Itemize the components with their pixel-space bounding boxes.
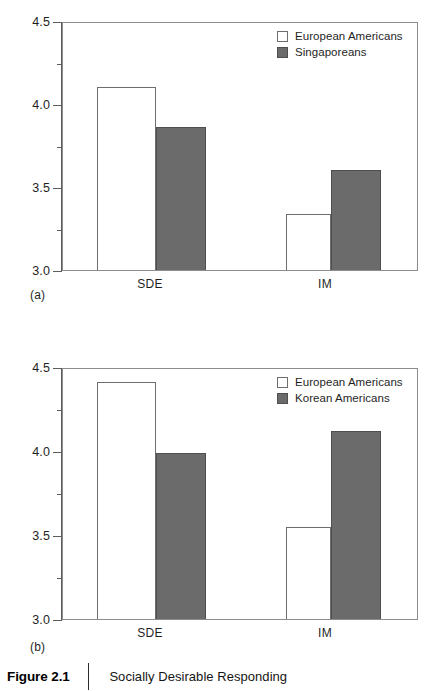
plot-area-panel-a — [62, 22, 418, 271]
y-axis-tick-major — [53, 188, 62, 189]
y-axis-tick-minor — [57, 147, 62, 148]
y-axis-panel-b — [0, 348, 62, 648]
y-axis-panel-a — [0, 0, 62, 320]
x-axis-label-sde: SDE — [137, 277, 163, 291]
figure-title: Socially Desirable Responding — [109, 669, 287, 684]
panel-tag-b: (b) — [30, 640, 45, 654]
bar-sde-series-1 — [97, 382, 156, 619]
chart-panel-b: European AmericansKorean Americans (b) 3… — [0, 348, 435, 648]
legend-label: Korean Americans — [295, 392, 390, 404]
legend-item: European Americans — [277, 30, 403, 42]
y-axis-tick-minor — [57, 410, 62, 411]
x-axis-label-im: IM — [318, 277, 332, 291]
y-axis-tick-major — [53, 105, 62, 106]
y-axis-tick-minor — [57, 578, 62, 579]
legend-panel-a: European AmericansSingaporeans — [277, 30, 403, 58]
y-axis-label: 3.5 — [32, 181, 50, 195]
x-axis-label-im: IM — [318, 626, 332, 640]
legend-label: European Americans — [295, 376, 403, 388]
y-axis-label: 4.5 — [32, 361, 50, 375]
figure-number: Figure 2.1 — [7, 669, 70, 684]
y-axis-tick-minor — [57, 64, 62, 65]
legend-swatch-open — [277, 377, 288, 388]
legend-swatch-open — [277, 31, 288, 42]
panel-tag-a: (a) — [30, 288, 45, 302]
y-axis-label: 3.5 — [32, 529, 50, 543]
y-axis-tick-major — [53, 452, 62, 453]
caption-divider — [88, 663, 90, 690]
x-axis-label-sde: SDE — [137, 626, 163, 640]
bar-im-series-1 — [286, 214, 331, 270]
bar-im-series-2 — [331, 170, 381, 270]
chart-panel-a: European AmericansSingaporeans (a) 3.03.… — [0, 0, 435, 320]
legend-item: European Americans — [277, 376, 403, 388]
y-axis-tick-major — [53, 22, 62, 23]
legend-item: Singaporeans — [277, 46, 403, 58]
bar-im-series-1 — [286, 527, 331, 619]
y-axis-label: 4.5 — [32, 15, 50, 29]
legend-label: European Americans — [295, 30, 403, 42]
y-axis-label: 4.0 — [32, 445, 50, 459]
legend-label: Singaporeans — [295, 46, 367, 58]
bar-sde-series-1 — [97, 87, 156, 270]
y-axis-label: 4.0 — [32, 98, 50, 112]
figure-caption: Figure 2.1 Socially Desirable Responding — [0, 662, 435, 691]
y-axis-tick-major — [53, 536, 62, 537]
y-axis-label: 3.0 — [32, 264, 50, 278]
legend-item: Korean Americans — [277, 392, 403, 404]
y-axis-tick-minor — [57, 230, 62, 231]
plot-area-panel-b — [62, 368, 418, 620]
y-axis-label: 3.0 — [32, 613, 50, 627]
bar-sde-series-2 — [156, 127, 206, 270]
legend-swatch-filled — [277, 393, 288, 404]
y-axis-tick-minor — [57, 494, 62, 495]
bar-sde-series-2 — [156, 453, 206, 619]
y-axis-tick-major — [53, 368, 62, 369]
legend-swatch-filled — [277, 47, 288, 58]
bar-im-series-2 — [331, 431, 381, 619]
y-axis-tick-major — [53, 271, 62, 272]
legend-panel-b: European AmericansKorean Americans — [277, 376, 403, 404]
y-axis-tick-major — [53, 620, 62, 621]
